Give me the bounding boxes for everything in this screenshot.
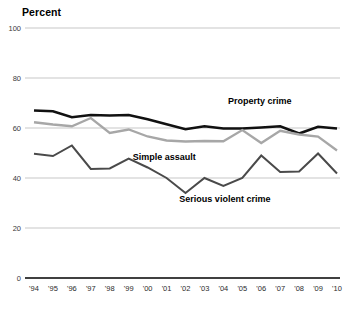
- x-tick-label: '00: [143, 284, 153, 293]
- crime-reporting-line-chart: Percent 020406080100 '94'95'96'97'98'99'…: [0, 0, 351, 309]
- y-tick-label: 100: [8, 24, 21, 33]
- x-tick-label: '04: [218, 284, 228, 293]
- series-annotation-simple-assault: Simple assault: [133, 152, 196, 162]
- y-tick-label: 0: [17, 274, 21, 283]
- x-tick-label: '10: [332, 284, 342, 293]
- y-tick-label: 60: [13, 124, 21, 133]
- series-annotation-serious-violent-crime: Serious violent crime: [179, 194, 270, 204]
- x-tick-label: '94: [29, 284, 39, 293]
- x-tick-label: '98: [105, 284, 115, 293]
- x-tick-label: '08: [294, 284, 304, 293]
- x-tick-label: '99: [124, 284, 134, 293]
- y-tick-label: 20: [13, 224, 21, 233]
- x-tick-label: '02: [181, 284, 191, 293]
- series-annotation-property-crime: Property crime: [228, 96, 292, 106]
- y-tick-label: 80: [13, 74, 21, 83]
- y-tick-label: 40: [13, 174, 21, 183]
- x-tick-labels-group: '94'95'96'97'98'99'00'01'02'03'04'05'06'…: [29, 284, 342, 293]
- x-tick-label: '03: [200, 284, 210, 293]
- x-tick-label: '09: [313, 284, 323, 293]
- x-tick-label: '01: [162, 284, 172, 293]
- series-line-simple-assault: [34, 118, 337, 151]
- x-tick-label: '97: [86, 284, 96, 293]
- x-tick-label: '06: [256, 284, 266, 293]
- chart-plot-area: 020406080100 '94'95'96'97'98'99'00'01'02…: [0, 0, 351, 309]
- x-tick-label: '07: [275, 284, 285, 293]
- x-tick-label: '95: [48, 284, 58, 293]
- y-tick-labels-group: 020406080100: [8, 24, 21, 283]
- x-tick-label: '05: [237, 284, 247, 293]
- x-tick-label: '96: [67, 284, 77, 293]
- series-annotations-group: Property crimeSimple assaultSerious viol…: [133, 96, 292, 203]
